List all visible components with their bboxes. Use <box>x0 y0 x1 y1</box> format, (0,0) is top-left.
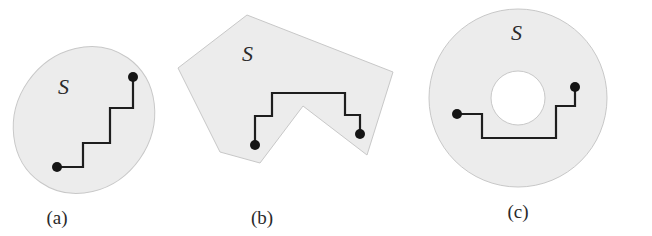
caption-c: (c) <box>507 201 528 223</box>
set-label-c: S <box>511 20 522 45</box>
caption-b: (b) <box>251 207 273 229</box>
start-point-a <box>52 162 62 172</box>
start-point-c <box>452 109 462 119</box>
figure-canvas: S (a) S (b) S (c) <box>0 0 652 236</box>
set-label-a: S <box>58 74 69 99</box>
set-label-b: S <box>242 41 253 66</box>
end-point-a <box>128 72 138 82</box>
end-point-c <box>570 82 580 92</box>
region-polygon <box>178 15 393 163</box>
region-ellipse <box>0 19 183 222</box>
caption-a: (a) <box>46 207 67 229</box>
panel-c: S (c) <box>429 9 607 223</box>
end-point-b <box>355 129 365 139</box>
panel-b: S (b) <box>178 15 393 229</box>
region-annulus-hole <box>491 71 545 125</box>
panel-a: S (a) <box>0 19 183 229</box>
start-point-b <box>250 140 260 150</box>
